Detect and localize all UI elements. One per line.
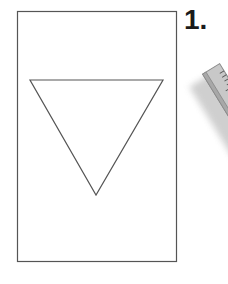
- step-number: 1.: [184, 6, 207, 34]
- instruction-diagram: [0, 0, 228, 284]
- ruler: [187, 64, 228, 284]
